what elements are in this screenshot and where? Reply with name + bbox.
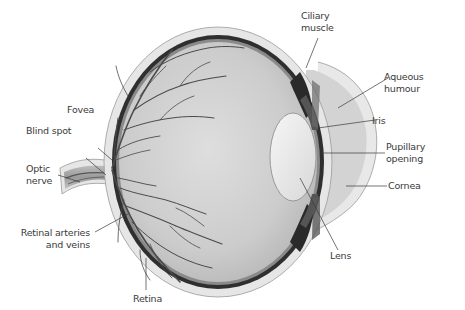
label-line: Retinal arteries <box>20 227 90 239</box>
label-line: opening <box>386 153 425 165</box>
lens <box>270 113 316 201</box>
label-blind-spot: Blind spot <box>26 125 71 137</box>
label-retina: Retina <box>133 293 162 305</box>
label-line: Optic <box>26 163 52 175</box>
label-retinal-arteries-veins: Retinal arteries and veins <box>20 227 90 250</box>
label-fovea: Fovea <box>67 104 94 116</box>
label-lens: Lens <box>330 250 351 262</box>
label-line: humour <box>384 83 424 95</box>
label-pupillary-opening: Pupillary opening <box>386 141 425 164</box>
label-aqueous-humour: Aqueous humour <box>384 71 424 94</box>
optic-nerve <box>60 159 108 194</box>
label-line: Ciliary <box>301 10 334 22</box>
label-line: nerve <box>26 175 52 187</box>
label-ciliary-muscle: Ciliary muscle <box>301 10 334 33</box>
label-line: Pupillary <box>386 141 425 153</box>
label-cornea: Cornea <box>388 180 421 192</box>
label-line: and veins <box>20 239 90 251</box>
label-optic-nerve: Optic nerve <box>26 163 52 186</box>
label-iris: Iris <box>372 115 386 127</box>
label-line: muscle <box>301 22 334 34</box>
label-line: Aqueous <box>384 71 424 83</box>
